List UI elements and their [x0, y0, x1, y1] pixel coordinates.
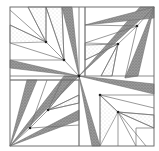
top-left-junction-dot	[45, 41, 48, 44]
bottom-right-light-patch	[100, 95, 118, 146]
bottom-right-dark-wedge	[79, 76, 154, 94]
bottom-right-junction-dot	[117, 111, 120, 114]
top-left-junction-dot	[63, 59, 66, 62]
bottom-right-dark-wedge	[79, 76, 100, 146]
top-right-junction-dot	[136, 25, 139, 28]
bottom-left-junction-dot	[47, 109, 50, 112]
top-right-junction-dot	[117, 43, 120, 46]
bottom-left-junction-dot	[29, 127, 32, 130]
center-dot	[78, 75, 81, 78]
quilt-block-figure	[0, 0, 159, 151]
top-left-dark-wedge	[62, 7, 79, 76]
top-right-dark-wedge	[85, 7, 154, 25]
bottom-right-junction-dot	[99, 94, 102, 97]
top-left-dark-wedge	[10, 60, 79, 76]
quilt-block-svg	[0, 0, 159, 151]
